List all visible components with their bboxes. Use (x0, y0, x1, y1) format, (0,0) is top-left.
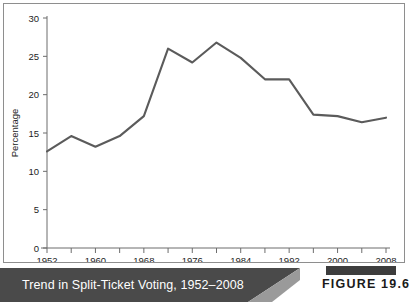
y-axis-title: Percentage (9, 109, 20, 158)
caption-label: Trend in Split-Ticket Voting, 1952–2008 (22, 268, 244, 302)
x-tick-label: 2008 (375, 255, 396, 262)
figure-number-block: FIGURE 19.6 (322, 266, 404, 302)
x-tick-label: 1984 (230, 255, 251, 262)
y-tick-label: 5 (34, 204, 39, 215)
x-tick-label: 1976 (182, 255, 203, 262)
figure-accent-bar (326, 266, 396, 275)
figure-page: 0510152025301952196019681976198419922000… (0, 0, 411, 305)
x-tick-label: 2000 (327, 255, 348, 262)
x-tick-label: 1992 (279, 255, 300, 262)
x-tick-label: 1952 (36, 255, 57, 262)
y-tick-label: 20 (28, 89, 39, 100)
data-line (47, 43, 386, 152)
caption-banner: Trend in Split-Ticket Voting, 1952–2008 (0, 268, 300, 302)
y-tick-label: 25 (28, 51, 39, 62)
x-tick-label: 1960 (85, 255, 106, 262)
line-chart: 0510152025301952196019681976198419922000… (0, 0, 411, 262)
y-tick-label: 15 (28, 128, 39, 139)
y-tick-label: 10 (28, 166, 39, 177)
x-tick-label: 1968 (133, 255, 154, 262)
y-tick-label: 0 (34, 243, 39, 254)
figure-number-label: FIGURE 19.6 (322, 277, 402, 291)
y-tick-label: 30 (28, 13, 39, 24)
